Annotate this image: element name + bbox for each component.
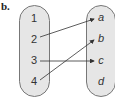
arrow-2-to-a bbox=[40, 19, 94, 37]
mapping-arrows bbox=[0, 0, 115, 100]
arrow-4-to-b bbox=[40, 40, 94, 80]
